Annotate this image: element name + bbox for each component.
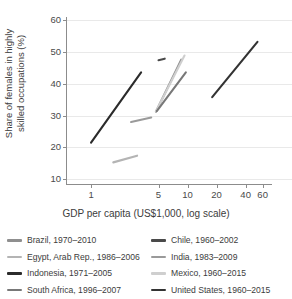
series-line (113, 156, 137, 163)
x-axis-title: GDP per capita (US$1,000, log scale) (0, 208, 292, 219)
legend-label: India, 1983–2009 (171, 252, 237, 262)
legend-swatch-icon (7, 289, 22, 292)
series-lines (0, 0, 292, 200)
legend-swatch-icon (7, 256, 22, 259)
legend-item[interactable]: Chile, 1960–2002 (151, 232, 292, 249)
series-line (212, 42, 257, 97)
legend-label: Brazil, 1970–2010 (27, 235, 96, 245)
legend-item[interactable]: India, 1983–2009 (151, 249, 292, 266)
legend-item[interactable]: Egypt, Arab Rep., 1986–2006 (7, 249, 152, 266)
legend-item[interactable]: United States, 1960–2015 (151, 282, 292, 299)
legend-label: South Africa, 1996–2007 (27, 285, 121, 295)
series-line (159, 59, 165, 61)
legend-swatch-icon (7, 239, 22, 242)
legend-item[interactable]: Indonesia, 1971–2005 (7, 265, 152, 282)
legend-swatch-icon (151, 239, 166, 242)
legend-label: Indonesia, 1971–2005 (27, 268, 112, 278)
legend-label: United States, 1960–2015 (171, 285, 270, 295)
legend-swatch-icon (151, 289, 166, 292)
series-line (91, 72, 141, 142)
legend-swatch-icon (151, 272, 166, 275)
legend-item[interactable]: Brazil, 1970–2010 (7, 232, 152, 249)
legend-label: Mexico, 1960–2015 (171, 268, 246, 278)
legend-item[interactable]: Mexico, 1960–2015 (151, 265, 292, 282)
series-line (156, 55, 185, 111)
legend-swatch-icon (7, 272, 22, 275)
legend-column-right: Chile, 1960–2002India, 1983–2009Mexico, … (151, 232, 292, 298)
legend-label: Egypt, Arab Rep., 1986–2006 (27, 252, 140, 262)
legend-label: Chile, 1960–2002 (171, 235, 238, 245)
chart-root: Share of females in highly skilled occup… (0, 0, 292, 299)
series-line (131, 118, 151, 122)
legend-column-left: Brazil, 1970–2010Egypt, Arab Rep., 1986–… (7, 232, 152, 298)
legend-swatch-icon (151, 256, 166, 259)
plot-area: Share of females in highly skilled occup… (0, 0, 292, 200)
legend: Brazil, 1970–2010Egypt, Arab Rep., 1986–… (0, 232, 292, 299)
legend-item[interactable]: South Africa, 1996–2007 (7, 282, 152, 299)
